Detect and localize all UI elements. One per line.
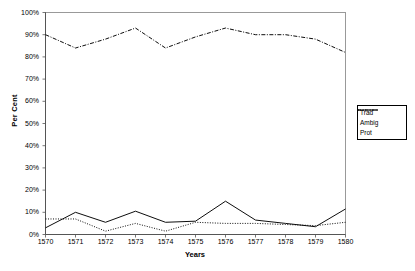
y-tick-label: 50% xyxy=(5,120,39,128)
legend-item-prot: Prot xyxy=(360,128,404,138)
y-tick-label: 10% xyxy=(5,208,39,216)
axis-tick-marks xyxy=(43,13,346,238)
y-tick-label: 40% xyxy=(5,142,39,150)
plot-frame xyxy=(46,13,346,235)
chart-container: Per Cent Years 0%10%20%30%40%50%60%70%80… xyxy=(0,0,415,271)
legend-swatch-prot xyxy=(358,106,378,114)
chart-legend: Trad Ambig Prot xyxy=(357,105,407,140)
y-tick-label: 100% xyxy=(5,9,39,17)
legend-label-ambig: Ambig xyxy=(360,119,378,127)
y-tick-label: 70% xyxy=(5,75,39,83)
y-tick-label: 90% xyxy=(5,31,39,39)
series-lines xyxy=(46,28,346,231)
y-tick-label: 80% xyxy=(5,53,39,61)
y-tick-label: 30% xyxy=(5,164,39,172)
y-axis-title: Per Cent xyxy=(10,81,19,141)
series-line-ambig xyxy=(46,28,346,52)
legend-label-prot: Prot xyxy=(360,129,372,137)
series-line-prot xyxy=(46,201,346,228)
x-axis-title: Years xyxy=(155,250,235,259)
y-tick-label: 20% xyxy=(5,186,39,194)
x-tick-label: 1580 xyxy=(326,238,366,246)
chart-plot-area xyxy=(0,0,415,271)
legend-item-ambig: Ambig xyxy=(360,118,404,128)
y-tick-label: 60% xyxy=(5,97,39,105)
